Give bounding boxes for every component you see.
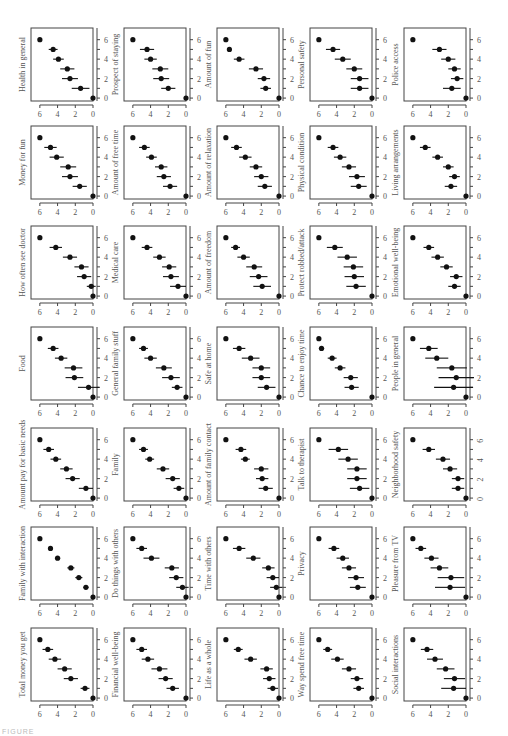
x-tick-label: 0 bbox=[277, 110, 281, 119]
x-tick-label: 2 bbox=[446, 208, 450, 217]
y-tick-label: 4 bbox=[477, 554, 481, 563]
x-tick-label: 4 bbox=[429, 409, 433, 418]
data-point bbox=[53, 245, 58, 250]
data-point bbox=[243, 457, 248, 462]
y-tick-label: 0 bbox=[290, 393, 294, 402]
x-tick-label: 2 bbox=[446, 510, 450, 519]
panel-grid: 02466420Health in general02466420Prospec… bbox=[0, 0, 508, 736]
data-point bbox=[356, 184, 361, 189]
panel-label: Medical care bbox=[111, 241, 120, 283]
y-tick-label: 6 bbox=[477, 36, 481, 45]
data-point bbox=[223, 536, 228, 541]
x-tick-label: 0 bbox=[277, 510, 281, 519]
y-tick-label: 2 bbox=[197, 273, 201, 282]
y-tick-label: 4 bbox=[290, 55, 294, 64]
data-point bbox=[168, 274, 173, 279]
y-tick-label: 6 bbox=[477, 134, 481, 143]
data-point bbox=[353, 284, 358, 289]
x-tick-label: 0 bbox=[91, 510, 95, 519]
data-point bbox=[426, 245, 431, 250]
y-tick-label: 4 bbox=[197, 153, 201, 162]
panel-label: Amount of family contact bbox=[204, 422, 213, 506]
data-point bbox=[253, 66, 258, 71]
data-point bbox=[70, 476, 75, 481]
y-tick-label: 6 bbox=[383, 134, 387, 143]
panel-label: Neighborhood safety bbox=[391, 431, 400, 498]
x-tick-label: 0 bbox=[464, 409, 468, 418]
y-tick-label: 0 bbox=[197, 694, 201, 703]
data-point bbox=[158, 66, 163, 71]
data-point bbox=[352, 274, 357, 279]
y-tick-label: 4 bbox=[104, 655, 108, 664]
y-tick-label: 0 bbox=[383, 292, 387, 301]
data-point bbox=[270, 686, 275, 691]
y-tick-label: 6 bbox=[290, 535, 294, 544]
x-tick-label: 6 bbox=[411, 409, 415, 418]
data-point bbox=[354, 174, 359, 179]
x-tick-label: 4 bbox=[149, 308, 153, 317]
panel-label: Social interactions bbox=[391, 635, 400, 694]
x-tick-label: 0 bbox=[91, 110, 95, 119]
y-tick-label: 2 bbox=[290, 475, 294, 484]
data-point bbox=[410, 536, 415, 541]
x-tick-label: 4 bbox=[56, 510, 60, 519]
y-tick-label: 0 bbox=[477, 192, 481, 201]
data-point bbox=[369, 394, 374, 399]
data-point bbox=[64, 466, 69, 471]
y-tick-label: 2 bbox=[477, 75, 481, 84]
panel-label: Health in general bbox=[18, 36, 27, 92]
data-point bbox=[316, 135, 321, 140]
x-tick-label: 0 bbox=[184, 710, 188, 719]
data-point bbox=[424, 647, 429, 652]
y-tick-label: 6 bbox=[290, 234, 294, 243]
data-point bbox=[223, 336, 228, 341]
y-tick-label: 2 bbox=[197, 75, 201, 84]
y-tick-label: 4 bbox=[477, 655, 481, 664]
y-tick-label: 4 bbox=[290, 455, 294, 464]
y-tick-label: 6 bbox=[104, 535, 108, 544]
y-tick-label: 4 bbox=[383, 354, 387, 363]
y-tick-label: 4 bbox=[290, 153, 294, 162]
data-point bbox=[37, 536, 42, 541]
x-tick-label: 2 bbox=[446, 710, 450, 719]
data-point bbox=[183, 394, 188, 399]
data-point bbox=[68, 676, 73, 681]
data-point bbox=[251, 556, 256, 561]
x-tick-label: 0 bbox=[184, 208, 188, 217]
x-tick-label: 6 bbox=[131, 308, 135, 317]
data-point bbox=[180, 585, 185, 590]
y-tick-label: 0 bbox=[290, 694, 294, 703]
x-tick-label: 0 bbox=[277, 308, 281, 317]
x-tick-label: 0 bbox=[464, 308, 468, 317]
x-tick-label: 6 bbox=[317, 208, 321, 217]
y-tick-label: 6 bbox=[383, 636, 387, 645]
y-tick-label: 6 bbox=[290, 134, 294, 143]
x-tick-label: 2 bbox=[446, 308, 450, 317]
data-point bbox=[463, 594, 468, 599]
panel-label: Living arrangements bbox=[391, 129, 400, 195]
data-point bbox=[276, 193, 281, 198]
x-tick-label: 2 bbox=[259, 308, 263, 317]
data-point bbox=[448, 575, 453, 580]
x-tick-label: 4 bbox=[149, 510, 153, 519]
data-point bbox=[130, 536, 135, 541]
y-tick-label: 6 bbox=[383, 436, 387, 445]
x-tick-label: 4 bbox=[242, 208, 246, 217]
x-tick-label: 4 bbox=[242, 510, 246, 519]
x-tick-label: 4 bbox=[429, 208, 433, 217]
data-point bbox=[346, 565, 351, 570]
y-tick-label: 4 bbox=[104, 455, 108, 464]
y-tick-label: 0 bbox=[383, 593, 387, 602]
panel-label: Chance to enjoy time bbox=[297, 329, 306, 398]
data-point bbox=[316, 437, 321, 442]
panel-label: Total money you get bbox=[18, 631, 27, 698]
data-point bbox=[59, 356, 64, 361]
data-point bbox=[331, 546, 336, 551]
data-point bbox=[316, 235, 321, 240]
x-tick-label: 0 bbox=[91, 609, 95, 618]
y-tick-label: 6 bbox=[104, 134, 108, 143]
panel-label: Do things with others bbox=[111, 529, 120, 598]
x-tick-label: 2 bbox=[352, 609, 356, 618]
y-tick-label: 4 bbox=[290, 655, 294, 664]
data-point bbox=[157, 255, 162, 260]
